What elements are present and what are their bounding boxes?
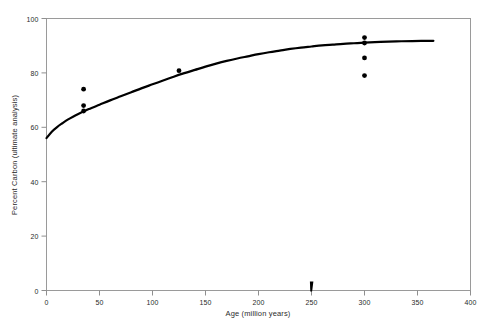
data-point	[362, 56, 367, 61]
x-tick-label: 250	[306, 299, 318, 306]
y-tick-label: 80	[0, 69, 39, 76]
y-tick-label: 60	[0, 124, 39, 131]
data-point	[362, 41, 367, 46]
data-point	[177, 68, 182, 73]
x-axis-title: Age (million years)	[226, 309, 291, 318]
data-point	[81, 103, 86, 108]
x-tick-label: 0	[45, 299, 49, 306]
data-point	[81, 87, 86, 92]
x-tick-label: 100	[147, 299, 159, 306]
y-tick-label: 40	[0, 178, 39, 185]
y-tick-label: 20	[0, 233, 39, 240]
x-tick-label: 150	[200, 299, 212, 306]
x-tick-label: 350	[412, 299, 424, 306]
data-point	[362, 35, 367, 40]
x-tick-label: 50	[96, 299, 104, 306]
x-tick-label: 300	[359, 299, 371, 306]
data-point	[362, 73, 367, 78]
x-tick-label: 200	[253, 299, 265, 306]
data-point	[81, 109, 86, 114]
y-tick-label: 100	[0, 15, 39, 22]
y-tick-label: 0	[0, 287, 39, 294]
chart-background	[0, 0, 495, 329]
x-tick-label: 400	[465, 299, 477, 306]
y-axis-title: Percent Carbon (ultimate analysis)	[10, 95, 19, 215]
chart-plot-area	[0, 0, 495, 329]
chart-figure: 020406080100 050100150200250300350400 Ag…	[0, 0, 495, 329]
